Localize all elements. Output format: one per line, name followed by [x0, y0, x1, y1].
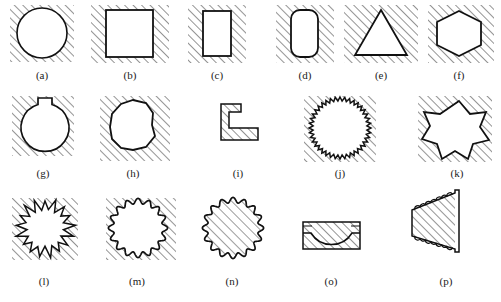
panel-caption-a: (a): [36, 69, 49, 82]
figure-canvas: (a) (b) (c) (d) (e) (f) (g) (h): [0, 0, 501, 302]
panel-caption-d: (d): [299, 69, 312, 82]
panel-caption-g: (g): [37, 167, 50, 180]
panel-caption-b: (b): [124, 69, 137, 82]
panel-caption-l: (l): [39, 275, 50, 288]
panel-caption-m: (m): [129, 275, 145, 288]
panel-caption-o: (o): [325, 275, 338, 288]
panel-caption-e: (e): [375, 69, 388, 82]
panel-caption-j: (j): [335, 167, 346, 180]
panel-caption-c: (c): [211, 69, 224, 82]
panel-caption-h: (h): [127, 167, 140, 180]
panel-caption-k: (k): [451, 167, 464, 180]
panel-caption-f: (f): [454, 69, 465, 82]
panel-caption-n: (n): [226, 275, 239, 288]
panel-caption-p: (p): [440, 275, 453, 288]
panel-caption-i: (i): [233, 167, 244, 180]
